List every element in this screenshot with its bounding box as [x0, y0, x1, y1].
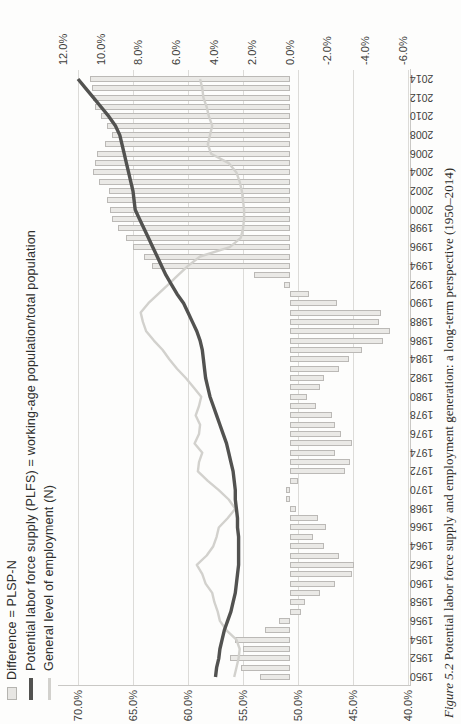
year-tick-label-1996: 1996 — [410, 241, 440, 253]
legend-item: Potential labor force supply (PLFS) = wo… — [22, 230, 41, 700]
year-tick-label-2010: 2010 — [410, 110, 440, 122]
year-tick-label-2014: 2014 — [410, 73, 440, 85]
year-tick-label-1982: 1982 — [410, 372, 440, 384]
year-tick-label-1980: 1980 — [410, 391, 440, 403]
legend-item-label: Difference = PLSP-N — [5, 560, 19, 680]
year-tick-label-1966: 1966 — [410, 522, 440, 534]
figure-caption-number: Figure 5.2 — [441, 664, 456, 718]
year-tick-label-1954: 1954 — [410, 634, 440, 646]
year-tick-label-2006: 2006 — [410, 148, 440, 160]
legend-item: General level of employment (N) — [40, 230, 59, 700]
year-tick-label-1950: 1950 — [410, 671, 440, 683]
lines-layer — [0, 0, 461, 724]
legend-item-label: General level of employment (N) — [42, 485, 56, 671]
year-tick-label-1968: 1968 — [410, 503, 440, 515]
legend-item-label: Potential labor force supply (PLFS) = wo… — [24, 230, 38, 671]
year-tick-label-1964: 1964 — [410, 540, 440, 552]
year-tick-label-1998: 1998 — [410, 223, 440, 235]
rotated-figure: 70.0%65.0%60.0%55.0%50.0%45.0%40.0% 12.0… — [0, 0, 461, 724]
year-tick-label-2008: 2008 — [410, 129, 440, 141]
year-tick-label-2002: 2002 — [410, 185, 440, 197]
figure-caption-text: Potential labor force supply and employm… — [441, 168, 456, 660]
year-tick-label-2004: 2004 — [410, 166, 440, 178]
right-axis-tick-label: -4.0% — [359, 36, 372, 65]
legend-bar-swatch-icon — [7, 687, 17, 700]
year-tick-label-1958: 1958 — [410, 596, 440, 608]
year-tick-label-1988: 1988 — [410, 316, 440, 328]
right-axis-tick-label: 8.0% — [132, 40, 145, 65]
left-axis-tick-label: 45.0% — [347, 690, 360, 724]
year-tick-label-1984: 1984 — [410, 353, 440, 365]
left-axis-tick-label: 50.0% — [292, 690, 305, 724]
left-axis-tick-label: 40.0% — [402, 690, 415, 724]
year-tick-label-1952: 1952 — [410, 652, 440, 664]
right-axis-tick-label: 0.0% — [284, 40, 297, 65]
figure-caption: Figure 5.2 Potential labor force supply … — [441, 2, 457, 718]
right-axis-tick-label: 2.0% — [246, 40, 259, 65]
year-tick-label-1972: 1972 — [410, 465, 440, 477]
year-tick-label-1990: 1990 — [410, 297, 440, 309]
left-axis-tick-label: 65.0% — [127, 690, 140, 724]
right-axis-tick-label: 6.0% — [170, 40, 183, 65]
left-axis-tick-label: 55.0% — [237, 690, 250, 724]
legend-thin-line-icon — [48, 678, 51, 700]
year-tick-label-1960: 1960 — [410, 578, 440, 590]
legend-item: Difference = PLSP-N — [3, 230, 22, 700]
year-tick-label-2000: 2000 — [410, 204, 440, 216]
year-tick-label-1962: 1962 — [410, 559, 440, 571]
right-axis-tick-label: -6.0% — [397, 36, 410, 65]
legend: Difference = PLSP-NPotential labor force… — [3, 230, 59, 700]
year-tick-label-2012: 2012 — [410, 92, 440, 104]
book-page: 70.0%65.0%60.0%55.0%50.0%45.0%40.0% 12.0… — [0, 0, 461, 724]
year-tick-label-1956: 1956 — [410, 615, 440, 627]
left-axis-tick-label: 60.0% — [182, 690, 195, 724]
right-axis-tick-label: 12.0% — [57, 34, 70, 65]
year-tick-label-1992: 1992 — [410, 279, 440, 291]
right-axis-tick-label: 4.0% — [208, 40, 221, 65]
year-tick-label-1986: 1986 — [410, 335, 440, 347]
employment-line — [141, 79, 244, 677]
legend-thick-line-icon — [29, 678, 33, 700]
year-tick-label-1970: 1970 — [410, 484, 440, 496]
year-tick-label-1978: 1978 — [410, 409, 440, 421]
left-axis-tick-label: 70.0% — [72, 690, 85, 724]
right-axis-tick-label: -2.0% — [321, 36, 334, 65]
year-tick-label-1974: 1974 — [410, 447, 440, 459]
right-axis-tick-label: 10.0% — [95, 34, 108, 65]
plfs-line — [78, 79, 239, 677]
year-tick-label-1994: 1994 — [410, 260, 440, 272]
year-tick-label-1976: 1976 — [410, 428, 440, 440]
